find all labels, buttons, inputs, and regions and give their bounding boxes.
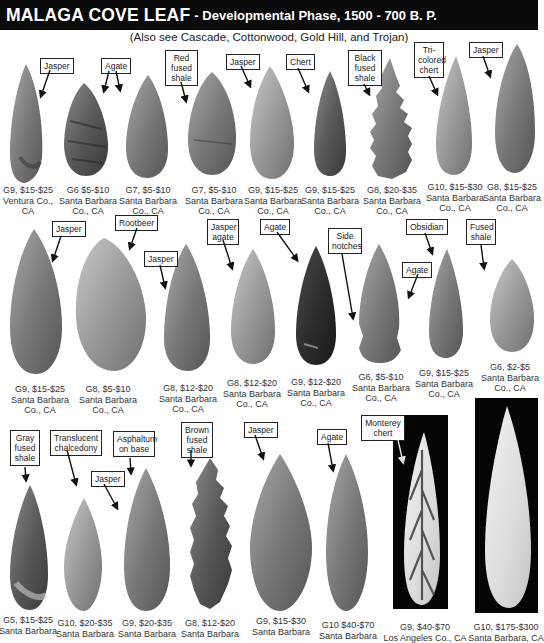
point-image <box>488 257 536 353</box>
location: Santa Barbara <box>415 379 473 390</box>
grade-value: G9, $15-$25 <box>301 185 359 196</box>
label-text: Side notches <box>332 231 362 251</box>
location: Co., CA <box>79 405 137 416</box>
label-text: Monterey chert <box>365 418 400 438</box>
point-image <box>74 236 148 372</box>
material-label: Obsidian <box>406 219 448 235</box>
location: Santa Barbara <box>481 373 539 384</box>
label-text: Asphaltum on base <box>117 434 157 454</box>
location: Co., CA <box>301 206 359 217</box>
point-caption: G9, $20-$35 Santa Barbara <box>118 618 176 639</box>
point-caption: G7, $5-$10 Santa Barbara Co., CA <box>185 185 243 217</box>
location: Santa Barbara, CA <box>468 633 544 643</box>
grade-value: G9, $12-$20 <box>287 377 345 388</box>
point-caption: G9, $15-$25 Santa Barbara Co., CA <box>415 368 473 400</box>
grade-value: G10 $40-$70 <box>319 620 377 631</box>
point-image <box>483 404 533 609</box>
point-image <box>8 483 50 611</box>
point-caption: G10 $40-$70 Santa Barbara <box>319 620 377 641</box>
point-image <box>62 81 110 177</box>
point-image <box>229 247 277 365</box>
location: Co., CA <box>363 206 421 217</box>
point-image <box>402 430 442 606</box>
grade-value: G7, $5-$10 <box>185 185 243 196</box>
point-image <box>122 466 172 612</box>
point-caption: G6 $5-$10 Santa Barbara Co., CA <box>59 185 117 217</box>
point-image <box>248 64 296 180</box>
point-image <box>493 42 537 174</box>
location: Santa Barbara <box>119 196 177 207</box>
point-caption: G8, $15-$25 Santa Barbara Co., CA <box>483 182 541 214</box>
location: Co., CA <box>244 206 302 217</box>
grade-value: G9, $40-$70 <box>383 622 466 633</box>
point-image <box>188 456 234 610</box>
point-caption: G9, $15-$25 Santa Barbara Co., CA <box>11 384 69 416</box>
location: Santa Barbara <box>223 389 281 400</box>
material-label: Jasper <box>144 251 178 267</box>
material-label: Jasper <box>52 221 86 237</box>
grade-value: G9, $15-$25 <box>3 185 53 196</box>
point-caption: G8, $20-$35 Santa Barbara Co., CA <box>363 185 421 217</box>
material-label: Agate <box>101 58 131 74</box>
point-image <box>294 244 338 366</box>
material-label: Agate <box>402 262 432 278</box>
location: Santa Barbara <box>319 631 377 642</box>
label-text: Red fused shale <box>171 53 192 83</box>
point-caption: G8, $12-$20 Santa Barbara Co., CA <box>223 378 281 410</box>
grade-value: G8, $12-$20 <box>159 383 217 394</box>
point-image <box>8 227 64 375</box>
point-caption: G9, $12-$20 Santa Barbara Co., CA <box>287 377 345 409</box>
label-text: Gray fused shale <box>15 433 36 463</box>
location: Santa Barbara <box>252 627 310 638</box>
point-caption: G5, $15-$25 Santa Barbara <box>0 615 57 636</box>
material-label: Jasper agate <box>207 219 239 245</box>
grade-value: G9, $15-$25 <box>11 384 69 395</box>
label-text: Jasper agate <box>211 222 237 242</box>
label-text: Tri-colored chert <box>418 45 446 75</box>
location: Santa Barbara <box>244 196 302 207</box>
point-image <box>357 242 403 364</box>
grade-value: G8, $12-$20 <box>181 618 239 629</box>
point-caption: G8, $12-$20 Santa Barbara Co., CA <box>159 383 217 415</box>
point-caption: G9, $15-$30 Santa Barbara <box>252 616 310 637</box>
material-label: Side notches <box>328 228 362 254</box>
point-caption: G10, $175-$300 Santa Barbara, CA <box>468 622 544 643</box>
point-caption: G9, $15-$25 Santa Barbara Co., CA <box>244 185 302 217</box>
material-label: Jasper <box>226 54 260 70</box>
grade-value: G9, $15-$25 <box>244 185 302 196</box>
point-caption: G8, $5-$10 Santa Barbara Co., CA <box>79 384 137 416</box>
material-label: Rootbeer <box>115 215 158 231</box>
grade-value: G10, $15-$30 <box>426 182 484 193</box>
location: Santa Barbara <box>363 196 421 207</box>
point-caption: G8, $12-$20 Santa Barbara <box>181 618 239 639</box>
material-label: Chert <box>286 54 315 70</box>
point-caption: G9, $15-$25 Ventura Co., CA <box>3 185 53 217</box>
location: Santa Barbara <box>59 196 117 207</box>
grade-value: G10, $20-$35 <box>56 618 114 629</box>
location: Co., CA <box>287 398 345 409</box>
location: Co., CA <box>185 206 243 217</box>
grade-value: G7, $5-$10 <box>119 185 177 196</box>
label-text: Translucent chalcedony <box>54 433 98 453</box>
material-label: Monterey chert <box>361 415 405 441</box>
grade-value: G6 $5-$10 <box>59 185 117 196</box>
page-title: MALAGA COVE LEAF <box>6 5 190 26</box>
location: Santa Barbara <box>79 395 137 406</box>
point-caption: G10, $15-$30 Santa Barbara Co., CA <box>426 182 484 214</box>
point-caption: G7, $5-$10 Santa Barbara Co., CA <box>119 185 177 217</box>
see-also-note: (Also see Cascade, Cottonwood, Gold Hill… <box>0 31 538 43</box>
grade-value: G5, $15-$25 <box>0 615 57 626</box>
material-label: Gray fused shale <box>10 430 40 466</box>
point-caption: G6, $5-$10 Santa Barbara Co., CA <box>352 372 410 404</box>
material-label: Jasper <box>469 42 503 58</box>
grade-value: G8, $12-$20 <box>223 378 281 389</box>
location: Santa Barbara <box>118 629 176 640</box>
location: Co., CA <box>481 383 539 394</box>
grade-value: G6, $5-$10 <box>352 372 410 383</box>
point-image <box>312 69 348 177</box>
material-label: Tri-colored chert <box>414 42 444 78</box>
point-image <box>248 452 314 612</box>
location: Santa Barbara <box>287 388 345 399</box>
point-image <box>124 73 170 179</box>
material-label: Jasper <box>91 471 125 487</box>
